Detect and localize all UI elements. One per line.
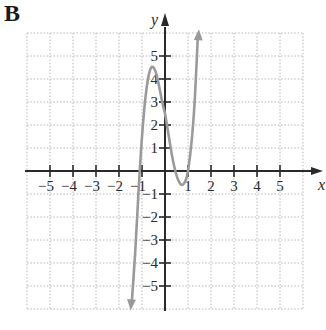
x-tick-label: 3 (230, 178, 238, 194)
x-tick-label: −4 (61, 178, 77, 194)
y-tick-label: 2 (151, 117, 159, 133)
y-axis-label: y (149, 11, 159, 29)
x-tick-label: −3 (84, 178, 100, 194)
tick-labels: −5−4−3−2−112345−5−4−3−2−112345xy (38, 11, 325, 294)
y-axis-arrow-icon (161, 13, 169, 26)
curve-arrow-up-icon (194, 29, 203, 40)
y-tick-label: −1 (142, 186, 158, 202)
x-axis-label: x (317, 176, 325, 193)
x-tick-label: 4 (253, 178, 261, 194)
y-tick-label: −3 (142, 232, 158, 248)
x-tick-label: 5 (276, 178, 284, 194)
chart: −5−4−3−2−112345−5−4−3−2−112345xy (0, 0, 326, 330)
curve-arrow-down-icon (127, 299, 136, 310)
y-tick-label: 5 (151, 48, 159, 64)
y-tick-label: −5 (142, 278, 158, 294)
y-tick-label: −2 (142, 209, 158, 225)
x-tick-label: −5 (38, 178, 54, 194)
y-tick-label: 1 (151, 140, 159, 156)
y-tick-label: 3 (151, 94, 159, 110)
x-axis-arrow-icon (311, 167, 323, 175)
x-tick-label: −2 (107, 178, 123, 194)
x-tick-label: 2 (207, 178, 215, 194)
y-tick-label: −4 (142, 255, 158, 271)
